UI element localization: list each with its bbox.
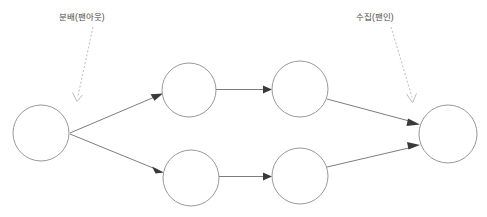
edge-arrowhead	[263, 173, 272, 181]
annotation-label-fanout: 분배(팬아웃)	[59, 12, 105, 23]
annotation-arrowhead	[407, 94, 417, 103]
edge-top-stage-1-to-top-stage-2	[216, 86, 272, 94]
edge-line	[327, 147, 413, 167]
edge-arrowhead	[151, 94, 164, 101]
diagram-canvas: 분배(팬아웃) 수집(팬인)	[0, 0, 487, 217]
annotation-leader-fanout	[73, 27, 94, 102]
node-top-stage-1[interactable]	[162, 63, 216, 117]
annotation-label-fanin: 수집(팬인)	[356, 12, 394, 23]
node-top-stage-2[interactable]	[272, 61, 328, 117]
annotation-arrowhead	[73, 93, 83, 102]
edge-line	[327, 99, 413, 122]
edge-arrowhead	[407, 142, 420, 150]
annotation-leader-line	[391, 27, 412, 97]
annotation-leader-group	[73, 27, 417, 103]
edge-line	[70, 134, 158, 170]
edge-group	[70, 86, 420, 181]
edge-top-stage-2-to-sink	[327, 99, 420, 126]
node-source[interactable]	[13, 105, 69, 161]
annotation-leader-line	[78, 27, 93, 96]
node-bottom-stage-1[interactable]	[163, 150, 219, 206]
edge-arrowhead	[263, 86, 272, 94]
edge-bottom-stage-1-to-bottom-stage-2	[219, 173, 272, 181]
edge-arrowhead	[407, 119, 421, 127]
edge-arrowhead	[152, 167, 164, 174]
node-bottom-stage-2[interactable]	[272, 148, 328, 204]
edge-source-to-bottom-stage-1	[70, 134, 164, 173]
node-group	[13, 61, 477, 206]
annotation-leader-fanin	[391, 27, 417, 103]
edge-source-to-top-stage-1	[70, 94, 163, 134]
diagram-svg	[0, 0, 487, 217]
edge-bottom-stage-2-to-sink	[327, 142, 420, 167]
edge-line	[70, 96, 157, 133]
node-sink[interactable]	[419, 105, 477, 163]
